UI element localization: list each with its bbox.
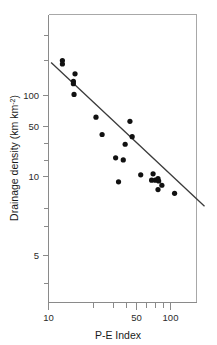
- y-axis-title-main: Drainage density (km km: [8, 105, 20, 221]
- data-point: [172, 191, 177, 196]
- data-point: [123, 142, 128, 147]
- data-point: [71, 81, 76, 86]
- y-ticklabel-100: 100: [23, 90, 39, 101]
- data-point: [150, 171, 155, 176]
- data-point: [71, 92, 76, 97]
- x-ticklabel-50: 50: [131, 312, 142, 323]
- data-point: [93, 115, 98, 120]
- data-point: [127, 119, 132, 124]
- y-axis-title-group: Drainage density (km km-2): [8, 95, 20, 221]
- data-point: [155, 187, 160, 192]
- x-ticklabel-100: 100: [163, 312, 179, 323]
- y-ticklabel-5: 5: [34, 250, 39, 261]
- data-point: [60, 61, 65, 66]
- data-point: [130, 134, 135, 139]
- data-point: [72, 71, 77, 76]
- chart-figure: 100 50 10 5 10 50 100 P-E Index Drainag: [0, 0, 217, 345]
- data-point: [156, 178, 161, 183]
- drainage-density-scatter-plot: 100 50 10 5 10 50 100 P-E Index Drainag: [0, 0, 217, 345]
- y-ticklabel-50: 50: [28, 121, 39, 132]
- y-ticklabel-10: 10: [28, 171, 39, 182]
- y-axis-title: Drainage density (km km-2): [8, 95, 20, 221]
- x-axis-title: P-E Index: [95, 329, 142, 341]
- data-point: [121, 157, 126, 162]
- y-axis-title-suffix: ): [8, 95, 20, 99]
- data-point: [159, 183, 164, 188]
- x-ticklabel-10: 10: [43, 312, 54, 323]
- data-point: [138, 172, 143, 177]
- data-point: [113, 155, 118, 160]
- data-point: [116, 179, 121, 184]
- data-point: [100, 132, 105, 137]
